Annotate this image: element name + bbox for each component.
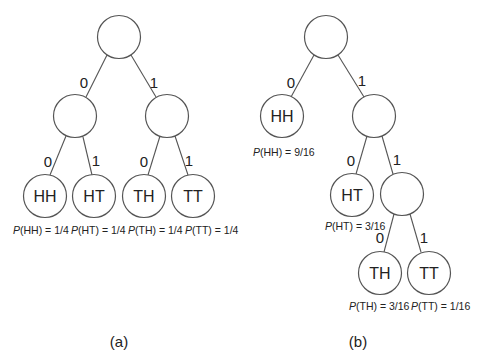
probability-hh: P(HH) = 9/16 <box>253 146 315 158</box>
leaf-label-tt: TT <box>183 188 203 205</box>
leaf-label-hh: HH <box>270 108 293 125</box>
leaf-label-ht: HT <box>341 187 363 204</box>
edge-label: 0 <box>44 153 52 170</box>
tree-b-root-node <box>305 16 348 59</box>
edge-a-right-th <box>148 136 160 175</box>
edge-b-internal2-th <box>384 214 394 252</box>
leaf-label-th: TH <box>133 188 154 205</box>
edge-label: 1 <box>150 74 158 91</box>
leaf-label-ht: HT <box>83 188 105 205</box>
edge-b-internal-internal2 <box>382 136 393 174</box>
edge-label: 1 <box>92 152 100 169</box>
tree-a-internal-node-right <box>146 95 189 138</box>
probability-ht: P(HT) = 1/4 <box>71 224 126 236</box>
tree-b-internal-node-2 <box>381 173 424 216</box>
edge-label: 1 <box>185 152 193 169</box>
tree-a-internal-node-left <box>54 95 97 138</box>
probability-hh: P(HH) = 1/4 <box>13 224 69 236</box>
edge-label: 1 <box>393 151 401 168</box>
edge-a-root-left <box>86 55 107 97</box>
caption-b: (b) <box>349 333 367 350</box>
probability-ht: P(HT) = 3/16 <box>325 220 386 232</box>
leaf-label-th: TH <box>369 265 390 282</box>
tree-b: 0 1 0 1 0 1 HH HT TH TT P(HH) = 9/16 P(H… <box>253 16 470 351</box>
probability-th: P(TH) = 1/4 <box>128 224 183 236</box>
edge-label: 0 <box>140 153 148 170</box>
edge-label: 1 <box>420 229 428 246</box>
edge-b-internal-ht <box>356 136 367 174</box>
huffman-trees-diagram: 0 1 0 1 0 1 HH HT TH TT P(HH) = 1/4 P(HT… <box>0 0 477 361</box>
tree-a-root-node <box>98 16 141 59</box>
edge-label: 0 <box>347 152 355 169</box>
edge-a-left-hh <box>50 136 66 175</box>
leaf-label-hh: HH <box>33 188 56 205</box>
tree-b-internal-node-1 <box>353 95 396 138</box>
edge-label: 0 <box>287 74 295 91</box>
leaf-label-tt: TT <box>419 265 439 282</box>
edge-label: 0 <box>80 74 88 91</box>
edge-label: 1 <box>358 72 366 89</box>
edge-a-left-ht <box>83 137 92 175</box>
probability-tt: P(TT) = 1/4 <box>185 224 239 236</box>
probability-th: P(TH) = 3/16 <box>349 300 410 312</box>
tree-a: 0 1 0 1 0 1 HH HT TH TT P(HH) = 1/4 P(HT… <box>13 16 239 351</box>
caption-a: (a) <box>110 333 128 350</box>
probability-tt: P(TT) = 1/16 <box>411 300 470 312</box>
